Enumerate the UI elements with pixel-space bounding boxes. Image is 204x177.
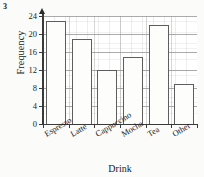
y-tick (39, 70, 43, 71)
x-tick (171, 124, 172, 128)
y-tick-label-24: 24 (29, 12, 38, 21)
category-separator (94, 16, 95, 124)
y-tick-label-0: 0 (33, 120, 37, 129)
y-tick (39, 88, 43, 89)
y-tick (39, 34, 43, 35)
y-tick-label-8: 8 (33, 84, 37, 93)
y-axis-arrow-icon (39, 8, 45, 14)
plot-area (43, 16, 197, 124)
y-tick (39, 16, 43, 17)
bar-cappuccino (97, 70, 117, 124)
y-axis-line (42, 12, 44, 125)
y-tick-label-4: 4 (33, 102, 37, 111)
bar-latte (72, 39, 92, 125)
y-tick (39, 52, 43, 53)
y-tick (39, 106, 43, 107)
bar-other (174, 84, 194, 125)
y-tick (39, 124, 43, 125)
y-tick-label-12: 12 (29, 66, 38, 75)
x-tick-label-tea: Tea (146, 125, 161, 139)
category-separator (171, 16, 172, 124)
category-separator (120, 16, 121, 124)
category-separator (146, 16, 147, 124)
y-tick-label-20: 20 (29, 30, 38, 39)
y-tick-label-16: 16 (29, 48, 38, 57)
category-separator (69, 16, 70, 124)
bar-espresso (46, 21, 66, 125)
bar-chart-figure: 3 04812162024 EspressoLatteCappuccinoMoc… (0, 0, 204, 177)
bar-tea (149, 25, 169, 124)
x-tick (43, 124, 44, 128)
x-tick (146, 124, 147, 128)
x-tick (197, 124, 198, 128)
x-tick (94, 124, 95, 128)
x-axis-title: Drink (43, 163, 197, 174)
y-axis-title: Frequency (15, 5, 26, 101)
